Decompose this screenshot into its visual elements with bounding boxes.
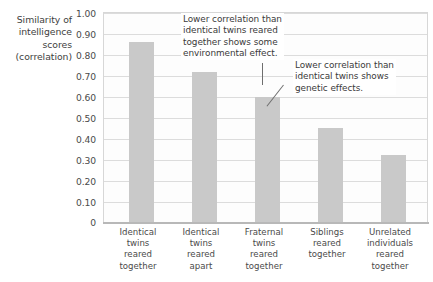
x-tick-label-unrelated-individuals-reared-together: Unrelated individuals reared together	[352, 227, 428, 272]
x-tick-line: individuals	[352, 238, 428, 249]
y-tick-label: 0.80	[60, 50, 96, 61]
y-tick-label: 0.90	[60, 29, 96, 40]
annotation-line: genetic effects.	[295, 83, 394, 94]
annotation-leader-line-environmental	[262, 63, 263, 85]
y-tick-label: 0.10	[60, 197, 96, 208]
x-tick-line: together	[352, 261, 428, 272]
y-tick-label: 1.00	[60, 8, 96, 19]
x-tick-line: reared	[352, 249, 428, 260]
annotation-line: Lower correlation than	[295, 60, 394, 71]
y-tick-label: 0.40	[60, 134, 96, 145]
annotation-line: Lower correlation than	[183, 14, 282, 25]
annotation-line: identical twins reared	[183, 25, 282, 36]
y-tick-label: 0.50	[60, 113, 96, 124]
x-tick-line: Unrelated	[352, 227, 428, 238]
x-tick-line: together	[226, 261, 302, 272]
bar-fraternal-twins-reared-together	[255, 97, 280, 222]
annotation-line: together shows some	[183, 37, 282, 48]
annotation-environmental-effect: Lower correlation than identical twins r…	[181, 13, 284, 60]
y-tick-label: 0.30	[60, 155, 96, 166]
x-axis-baseline	[103, 222, 429, 224]
bar-chart-figure: Similarity of intelligence scores (corre…	[0, 0, 433, 282]
y-tick-label: 0.60	[60, 92, 96, 103]
annotation-genetic-effects: Lower correlation than identical twins s…	[293, 59, 396, 95]
bar-unrelated-individuals-reared-together	[381, 155, 406, 222]
annotation-line: environmental effect.	[183, 48, 282, 59]
bar-siblings-reared-together	[318, 128, 343, 222]
y-tick-label: 0.70	[60, 71, 96, 82]
bar-identical-twins-reared-apart	[192, 72, 217, 222]
annotation-line: identical twins shows	[295, 71, 394, 82]
y-tick-label: 0	[60, 217, 96, 228]
y-tick-label: 0.20	[60, 176, 96, 187]
bar-identical-twins-reared-together	[129, 42, 154, 222]
